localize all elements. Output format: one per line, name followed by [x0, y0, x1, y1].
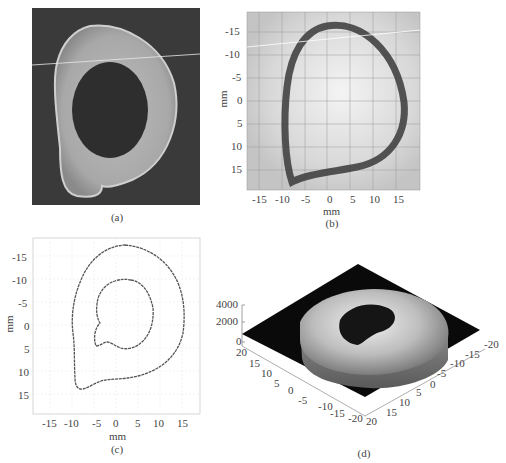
caption-d: (d)	[344, 447, 384, 459]
xtick: -15	[252, 193, 267, 205]
ytick: 0	[430, 378, 436, 390]
xtick: -10	[275, 193, 290, 205]
xtick: -5	[298, 394, 307, 406]
xtick: -5	[301, 193, 310, 205]
ztick: 2000	[216, 315, 238, 327]
surface-plot-3d	[200, 250, 506, 430]
xtick: 0	[113, 417, 119, 429]
ytick: 5	[416, 386, 422, 398]
xtick: 20	[236, 346, 247, 358]
panel-c-ylabel: mm	[3, 315, 15, 332]
ytick: 15	[231, 163, 242, 175]
contour-plot	[33, 238, 200, 414]
xtick: 5	[135, 417, 141, 429]
caption-a: (a)	[97, 211, 137, 223]
ytick: -10	[450, 357, 465, 369]
ztick: 4000	[216, 298, 238, 310]
xtick: -20	[348, 412, 363, 424]
panel-c	[33, 238, 200, 414]
ytick: -15	[465, 348, 480, 360]
ytick: 5	[24, 343, 30, 355]
caption-b: (b)	[312, 217, 352, 229]
panel-c-xlabel: mm	[109, 430, 126, 442]
ytick: -10	[225, 48, 240, 60]
xtick: 5	[350, 193, 356, 205]
xtick: -15	[330, 407, 345, 419]
ytick: -5	[437, 367, 446, 379]
xtick: 15	[177, 417, 188, 429]
ytick: -20	[484, 338, 499, 350]
panel-b	[247, 12, 420, 190]
xtick: -15	[42, 417, 57, 429]
xtick: -5	[92, 417, 101, 429]
ytick: -15	[12, 251, 27, 263]
ytick: -10	[12, 274, 27, 286]
ytick: 15	[386, 406, 397, 418]
inverted-bone-image	[247, 12, 420, 190]
xtick: 5	[274, 377, 280, 389]
caption-c: (c)	[97, 443, 137, 455]
ytick: 15	[18, 389, 29, 401]
ytick: -15	[225, 25, 240, 37]
ytick: 0	[24, 320, 30, 332]
xtick: 10	[153, 417, 164, 429]
xtick: 0	[327, 193, 333, 205]
xtick: -10	[64, 417, 79, 429]
ytick: 10	[18, 366, 29, 378]
panel-d	[200, 250, 506, 430]
ytick: 20	[366, 415, 377, 427]
ytick: 0	[237, 94, 243, 106]
bone-image-grayscale	[32, 8, 200, 205]
ytick: -5	[232, 71, 241, 83]
panel-b-ylabel: mm	[217, 90, 229, 107]
xtick: 0	[288, 384, 294, 396]
ytick: 10	[231, 140, 242, 152]
xtick: 15	[249, 357, 260, 369]
xtick: 10	[369, 193, 380, 205]
ytick: -5	[18, 297, 27, 309]
ytick: 10	[399, 396, 410, 408]
panel-a	[32, 8, 200, 205]
xtick: 15	[393, 193, 404, 205]
panel-b-xlabel: mm	[323, 205, 340, 217]
xtick: 10	[261, 367, 272, 379]
ytick: 5	[237, 117, 243, 129]
